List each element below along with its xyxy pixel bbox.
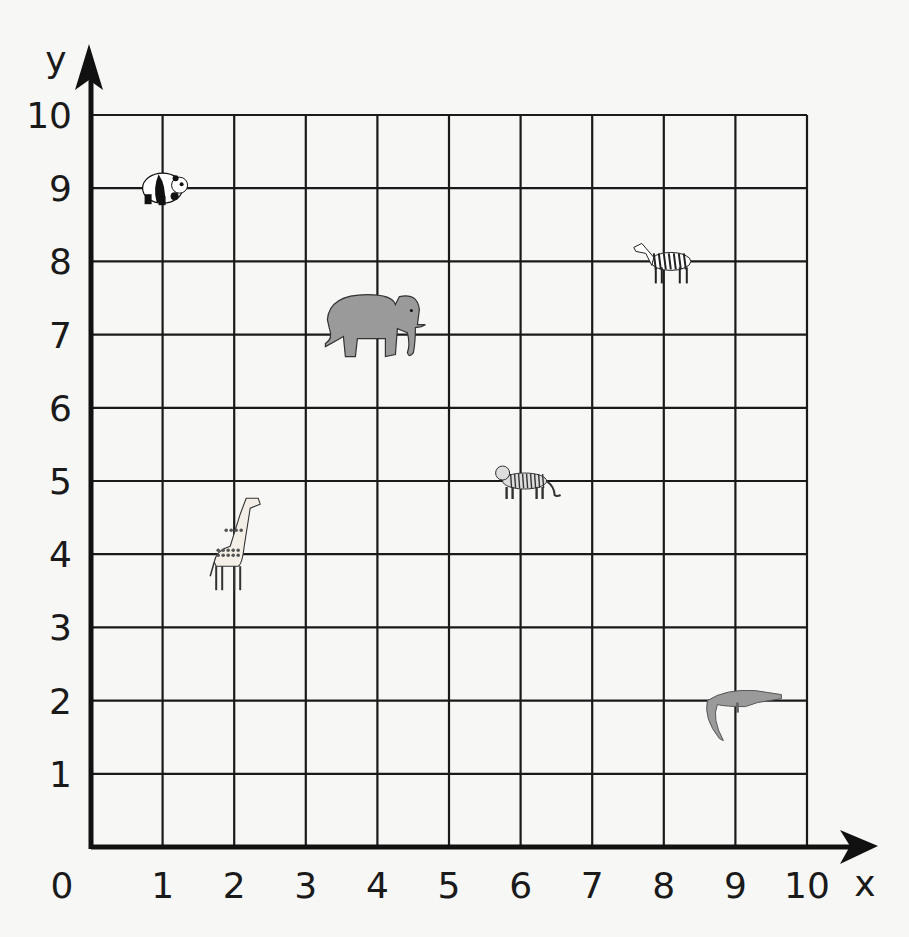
giraffe-spot	[226, 553, 230, 557]
y-axis-label: y	[45, 39, 66, 80]
axes	[75, 44, 878, 864]
giraffe-spot	[224, 528, 228, 532]
x-tick-label: 0	[51, 865, 74, 906]
x-tick-label: 7	[581, 865, 604, 906]
giraffe-spot	[221, 553, 225, 557]
elephant-icon	[325, 295, 425, 357]
coordinate-plane: 01234567891012345678910xy	[0, 0, 909, 937]
giraffe-spot	[231, 548, 235, 552]
tiger-stripe	[519, 474, 520, 488]
crocodile-body	[707, 690, 782, 740]
y-tick-label: 3	[49, 607, 72, 648]
y-tick-label: 1	[49, 754, 72, 795]
giraffe-spot	[221, 548, 225, 552]
x-tick-label: 8	[652, 865, 675, 906]
giraffe-spot	[229, 528, 233, 532]
tiger-stripe	[511, 474, 512, 488]
panda-eye	[180, 182, 184, 186]
x-tick-label: 1	[151, 865, 174, 906]
x-tick-label: 4	[366, 865, 389, 906]
tiger-stripe	[543, 474, 544, 488]
tiger-stripe	[535, 474, 536, 488]
x-tick-label: 2	[223, 865, 246, 906]
giraffe-spot	[239, 528, 243, 532]
y-tick-label: 9	[49, 168, 72, 209]
panda-leg	[145, 194, 152, 204]
y-tick-label: 6	[49, 388, 72, 429]
giraffe-spot	[234, 528, 238, 532]
y-tick-label: 10	[26, 95, 72, 136]
y-tick-label: 7	[49, 315, 72, 356]
tiger-stripe	[531, 474, 532, 488]
tiger-stripe	[515, 474, 516, 488]
giraffe-spot	[231, 553, 235, 557]
elephant-body	[325, 295, 425, 357]
tiger-tail	[547, 481, 561, 496]
panda-ear	[173, 175, 179, 181]
coordinate-grid-diagram: 01234567891012345678910xy	[0, 0, 909, 937]
tiger-head	[496, 466, 510, 480]
giraffe-spot	[236, 548, 240, 552]
tiger-stripe	[527, 474, 528, 488]
zebra-icon	[634, 243, 691, 283]
panda-leg	[159, 196, 166, 205]
x-tick-label: 3	[294, 865, 317, 906]
grid-lines	[91, 115, 807, 847]
tiger-stripe	[523, 474, 524, 488]
x-tick-label: 9	[724, 865, 747, 906]
crocodile-icon	[707, 690, 782, 740]
tiger-icon	[496, 466, 561, 499]
y-tick-label: 4	[49, 534, 72, 575]
y-tick-label: 2	[49, 681, 72, 722]
y-tick-label: 8	[49, 241, 72, 282]
y-tick-label: 5	[49, 461, 72, 502]
x-axis-label: x	[854, 863, 875, 904]
giraffe-spot	[236, 553, 240, 557]
animals-layer	[143, 173, 782, 740]
tick-labels: 01234567891012345678910xy	[26, 39, 875, 906]
giraffe-tail	[210, 562, 214, 576]
elephant-eye	[410, 309, 413, 312]
giraffe-spot	[226, 548, 230, 552]
panda-icon	[143, 173, 188, 205]
x-tick-label: 5	[438, 865, 461, 906]
x-tick-label: 10	[784, 865, 830, 906]
x-tick-label: 6	[509, 865, 532, 906]
panda-leg	[171, 192, 179, 200]
giraffe-spot	[216, 548, 220, 552]
tiger-stripe	[539, 474, 540, 488]
giraffe-spot	[216, 553, 220, 557]
